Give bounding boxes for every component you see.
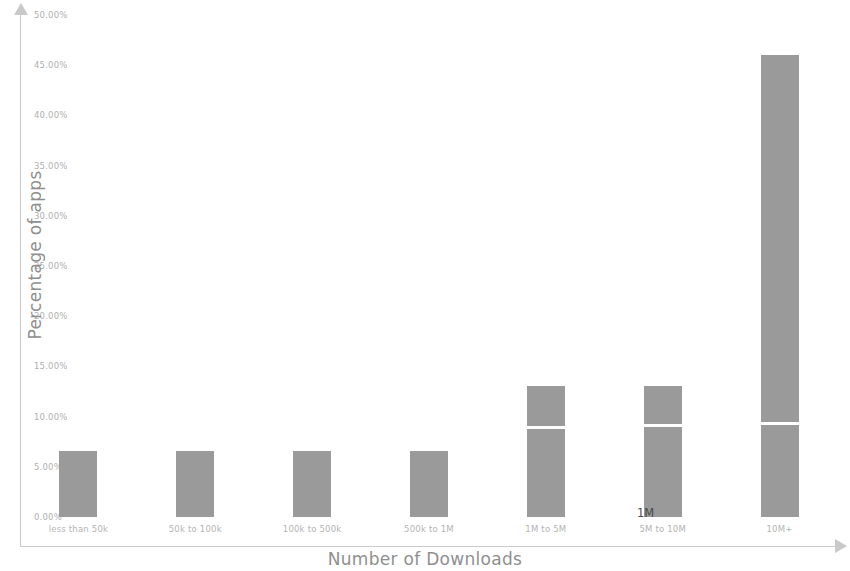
x-axis-tick-label: 1M to 5M bbox=[487, 524, 604, 534]
bar bbox=[410, 451, 448, 517]
bar-group bbox=[527, 386, 565, 517]
bar bbox=[176, 451, 214, 517]
x-axis-tick-label: 50k to 100k bbox=[137, 524, 254, 534]
bar-segment-marker bbox=[644, 424, 682, 427]
bar-group bbox=[761, 55, 799, 517]
bar-group bbox=[644, 386, 682, 517]
annotation-1m: 1M bbox=[637, 506, 654, 520]
bar-segment-marker bbox=[527, 426, 565, 429]
x-axis-tick-label: 500k to 1M bbox=[371, 524, 488, 534]
bar-segment-marker bbox=[761, 422, 799, 425]
x-axis-tick-label: less than 50k bbox=[20, 524, 137, 534]
x-axis-title: Number of Downloads bbox=[0, 549, 850, 569]
bar bbox=[761, 55, 799, 517]
x-axis-line bbox=[20, 546, 838, 547]
bar bbox=[59, 451, 97, 517]
bar-group bbox=[176, 451, 214, 517]
bar-group bbox=[293, 451, 331, 517]
bar-chart: 50.00%45.00%40.00%35.00%30.00%25.00%20.0… bbox=[0, 0, 850, 571]
bar bbox=[644, 386, 682, 517]
y-axis-title: Percentage of apps bbox=[25, 125, 45, 385]
x-axis-tick-label: 5M to 10M bbox=[604, 524, 721, 534]
x-axis-tick-label: 100k to 500k bbox=[254, 524, 371, 534]
plot-area: less than 50k50k to 100k100k to 500k500k… bbox=[20, 14, 838, 517]
bar bbox=[527, 386, 565, 517]
bar bbox=[293, 451, 331, 517]
bar-group bbox=[59, 451, 97, 517]
x-axis-tick-label: 10M+ bbox=[721, 524, 838, 534]
bar-group bbox=[410, 451, 448, 517]
